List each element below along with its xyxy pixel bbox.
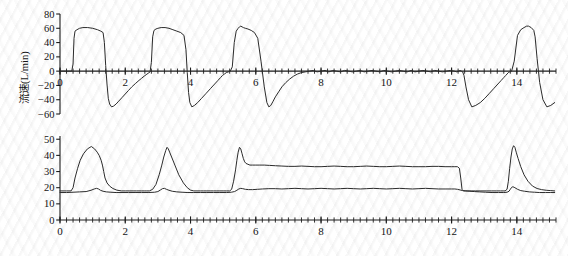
data-series-0 — [60, 26, 555, 107]
x-tick-label: 14 — [511, 76, 523, 88]
x-tick-label: 2 — [123, 225, 129, 237]
x-tick-label: 2 — [123, 76, 129, 88]
y-tick-label: 80 — [44, 9, 55, 20]
y-tick-label: −20 — [38, 80, 54, 91]
x-tick-label: 12 — [446, 225, 457, 237]
y-tick-label: 40 — [44, 37, 55, 48]
data-series-0 — [60, 146, 555, 191]
x-tick-label: 10 — [381, 225, 393, 237]
x-tick-label: 6 — [253, 225, 259, 237]
x-tick-label: 8 — [318, 225, 324, 237]
x-tick-label: 12 — [446, 76, 457, 88]
x-tick-label: 10 — [381, 76, 393, 88]
y-tick-label: 10 — [44, 198, 55, 209]
flow-plot-area: −60−40−2002040608002468101214 — [0, 0, 568, 128]
pressure-chart-panel: 气道压(cmH2O) 食管压(cmH2O) 010203040500246810… — [0, 128, 568, 256]
data-series-1 — [60, 187, 555, 193]
y-tick-label: −40 — [38, 94, 54, 105]
x-tick-label: 8 — [318, 76, 324, 88]
figure-container: 流速(L/min) −60−40−2002040608002468101214 … — [0, 0, 568, 256]
y-tick-label: −60 — [38, 109, 54, 120]
x-tick-label: 14 — [511, 225, 523, 237]
x-tick-label: 6 — [253, 76, 259, 88]
flow-chart-panel: 流速(L/min) −60−40−2002040608002468101214 — [0, 0, 568, 128]
y-tick-label: 40 — [44, 150, 55, 161]
y-tick-label: 20 — [44, 182, 55, 193]
x-tick-label: 0 — [57, 225, 63, 237]
x-tick-label: 4 — [188, 225, 194, 237]
y-tick-label: 20 — [44, 51, 55, 62]
x-tick-label: 0 — [57, 76, 63, 88]
y-tick-label: 0 — [49, 215, 54, 226]
y-tick-label: 0 — [49, 66, 54, 77]
y-tick-label: 50 — [44, 134, 55, 145]
y-tick-label: 60 — [44, 23, 55, 34]
pressure-plot-area: 0102030405002468101214 — [0, 128, 568, 256]
y-tick-label: 30 — [44, 166, 55, 177]
x-tick-label: 4 — [188, 76, 194, 88]
